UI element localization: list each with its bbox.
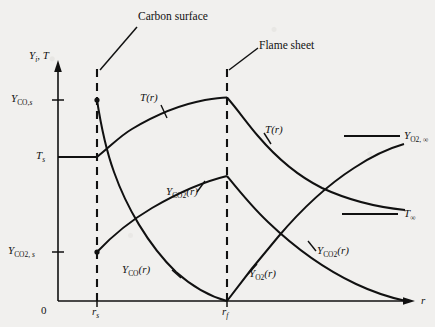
yco-s-sub: CO, <box>17 98 29 107</box>
curve-YCO2-outer <box>227 176 406 301</box>
curve-label-YCO2-right: YCO2(r) <box>317 245 349 259</box>
carbon-surface-leader-line <box>100 27 137 70</box>
T-left-paren: (r) <box>146 91 158 103</box>
yco-paren: (r) <box>139 263 151 275</box>
yco-sub: CO <box>128 269 138 278</box>
x-tick-label-rf: rf <box>222 306 228 320</box>
flame-sheet-leader-line <box>229 48 258 70</box>
curve-label-T-right: T(r) <box>265 124 283 135</box>
marker-YCO2-surface <box>94 249 99 254</box>
callout-carbon-surface: Carbon surface <box>138 11 208 23</box>
y-axis-label-tail: , T <box>37 49 49 61</box>
yco-s-sub-italic: s <box>29 98 32 107</box>
curve-label-YCO: YCO(r) <box>122 264 150 278</box>
x-tick-label-rs: rs <box>92 306 99 320</box>
curve-YCO2-inner <box>97 176 227 252</box>
combustion-profile-figure: Carbon surface Flame sheet Yi, T r 0 YCO… <box>0 0 435 327</box>
x-axis-label: r <box>421 295 425 306</box>
y-axis-label: Yi, T <box>29 50 49 64</box>
yco2-l-paren: (r) <box>186 185 198 197</box>
x-tick-marks <box>97 301 227 307</box>
y-axis <box>54 60 62 301</box>
yco2-r-paren: (r) <box>337 244 349 256</box>
curve-label-YCO2-left: YCO2(r) <box>166 186 198 200</box>
rf-sub: f <box>226 311 228 320</box>
x-axis <box>58 297 415 305</box>
y-tick-label-ts: Ts <box>36 150 45 164</box>
curve-YCO <box>97 100 227 301</box>
yco2-s-sub-italic: , s <box>28 250 35 259</box>
tinf-tail: ∞ <box>410 213 415 222</box>
yco2-l-sub: CO <box>172 191 182 200</box>
curve-label-YO2: YO2(r) <box>249 268 276 282</box>
asymptote-label-YO2-inf: YO2, ∞ <box>404 130 428 144</box>
yco2-r-sub: CO <box>323 250 333 259</box>
yco2-s-sub: CO <box>14 250 24 259</box>
rs-sub: s <box>96 311 99 320</box>
callout-flame-sheet: Flame sheet <box>259 40 314 52</box>
figure-svg <box>0 0 435 327</box>
yo2-paren: (r) <box>264 267 276 279</box>
y-tick-label-yco-s: YCO,s <box>11 93 32 107</box>
asymptote-label-T-inf: T∞ <box>404 208 415 222</box>
yo2inf-tail: , ∞ <box>419 135 428 144</box>
origin-label: 0 <box>41 305 47 316</box>
marker-YCO-surface <box>94 97 99 102</box>
ts-sub: s <box>42 155 45 164</box>
curve-label-T-left: T(r) <box>140 92 158 103</box>
y-tick-label-yco2-s: YCO2, s <box>8 245 35 259</box>
T-right-paren: (r) <box>271 123 283 135</box>
